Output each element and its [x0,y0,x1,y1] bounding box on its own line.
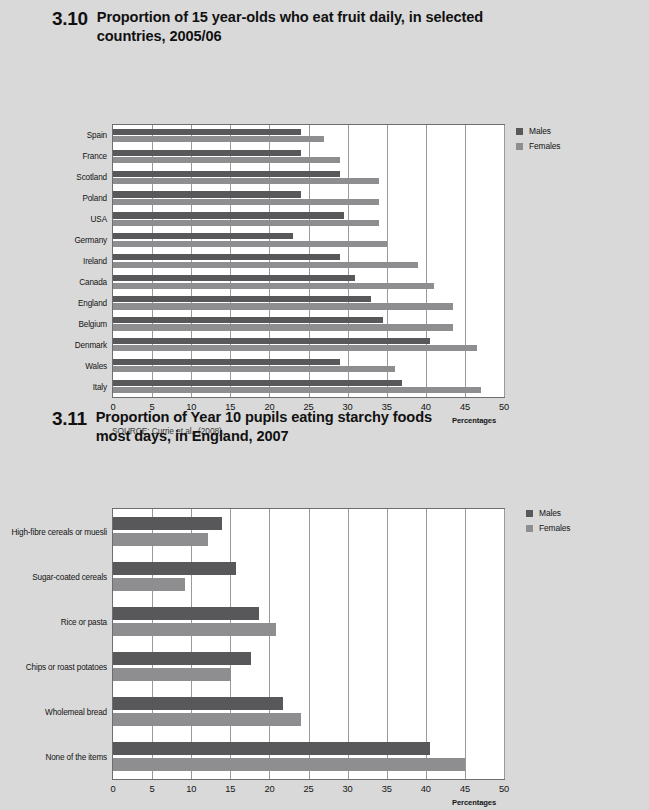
y-axis-label: Germany [51,236,107,245]
bar-males-7 [113,275,355,281]
legend-item: Females [516,141,560,151]
bar-males-3 [113,652,251,665]
bar-males-1 [113,150,301,156]
y-axis-label: England [51,298,107,307]
figure-3-11: 3.11 Proportion of Year 10 pupils eating… [0,408,649,808]
y-axis-label: Canada [51,277,107,286]
bar-females-4 [113,220,379,226]
x-axis-tick: 15 [225,784,235,794]
figure-number: 3.11 [52,408,87,429]
y-axis-label: Belgium [51,319,107,328]
gridline [387,509,388,779]
bar-males-2 [113,171,340,177]
bar-males-0 [113,129,301,135]
bar-males-8 [113,296,371,302]
document-page: 3.10 Proportion of 15 year-olds who eat … [0,0,649,810]
bar-females-6 [113,262,418,268]
x-axis-tick: 20 [264,784,274,794]
bar-females-10 [113,345,477,351]
x-axis-title: Percentages [452,798,496,807]
y-axis-label: Ireland [51,257,107,266]
x-axis-tick: 45 [460,784,470,794]
gridline [504,125,505,397]
legend-label: Males [529,126,551,136]
x-axis-tick: 35 [382,784,392,794]
bar-females-5 [113,758,465,771]
gridline [269,509,270,779]
legend-label: Males [539,508,561,518]
bar-females-7 [113,283,434,289]
figure-title-line2: most days, in England, 2007 [96,427,432,446]
legend-label: Females [529,141,560,151]
bar-males-9 [113,317,383,323]
y-axis-label: Rice or pasta [5,617,107,626]
y-axis-label: Denmark [51,340,107,349]
figure-title: Proportion of Year 10 pupils eating star… [96,408,432,446]
bar-females-1 [113,578,185,591]
gridline [191,509,192,779]
bar-males-5 [113,233,293,239]
legend-swatch-icon [526,510,533,517]
gridline [465,509,466,779]
y-axis-label: USA [51,215,107,224]
bar-females-11 [113,366,395,372]
y-axis-label: High-fibre cereals or muesli [5,527,107,536]
gridline [426,125,427,397]
x-axis-tick: 5 [150,784,155,794]
bar-males-11 [113,359,340,365]
gridline [348,509,349,779]
gridline [426,509,427,779]
gridline [230,509,231,779]
bar-females-2 [113,178,379,184]
y-axis-label: France [51,152,107,161]
chart-canvas [112,508,505,780]
chart-canvas [112,124,505,398]
y-axis-label: None of the items [5,752,107,761]
bar-males-4 [113,697,283,710]
figure-title-line1: Proportion of Year 10 pupils eating star… [96,409,432,425]
bar-males-6 [113,254,340,260]
figure-title: Proportion of 15 year-olds who eat fruit… [97,8,483,46]
gridline [465,125,466,397]
bar-males-3 [113,191,301,197]
bar-females-3 [113,199,379,205]
bar-females-0 [113,136,324,142]
figure-3-11-heading: 3.11 Proportion of Year 10 pupils eating… [0,408,649,446]
legend-swatch-icon [526,525,533,532]
figure-3-10: 3.10 Proportion of 15 year-olds who eat … [0,8,649,408]
y-axis-label: Italy [51,382,107,391]
gridline [152,509,153,779]
bar-males-0 [113,517,222,530]
figure-3-10-plot: SpainFranceScotlandPolandUSAGermanyIrela… [0,46,649,320]
bar-males-2 [113,607,259,620]
x-axis-tick: 30 [343,784,353,794]
legend-label: Females [539,523,570,533]
bar-females-5 [113,241,387,247]
gridline [309,509,310,779]
bar-males-5 [113,742,430,755]
x-axis-tick: 40 [421,784,431,794]
bar-females-9 [113,324,453,330]
y-axis-label: Scotland [51,173,107,182]
bar-males-12 [113,380,402,386]
legend-item: Females [526,523,570,533]
x-axis-tick: 10 [186,784,196,794]
bar-females-0 [113,533,208,546]
x-axis-tick: 0 [111,784,116,794]
bar-females-3 [113,668,231,681]
figure-number: 3.10 [52,8,88,29]
y-axis-label: Poland [51,194,107,203]
bar-females-12 [113,387,481,393]
x-axis: 05101520253035404550 [112,784,505,798]
figure-3-11-plot: High-fibre cereals or muesliSugar-coated… [0,446,649,718]
bar-females-2 [113,623,276,636]
y-axis-label: Spain [51,131,107,140]
bar-females-1 [113,157,340,163]
legend: MalesFemales [516,126,560,156]
bar-females-4 [113,713,301,726]
x-axis-tick: 25 [304,784,314,794]
y-axis-label: Wholemeal bread [5,707,107,716]
legend-swatch-icon [516,143,523,150]
legend-item: Males [526,508,570,518]
legend-swatch-icon [516,128,523,135]
